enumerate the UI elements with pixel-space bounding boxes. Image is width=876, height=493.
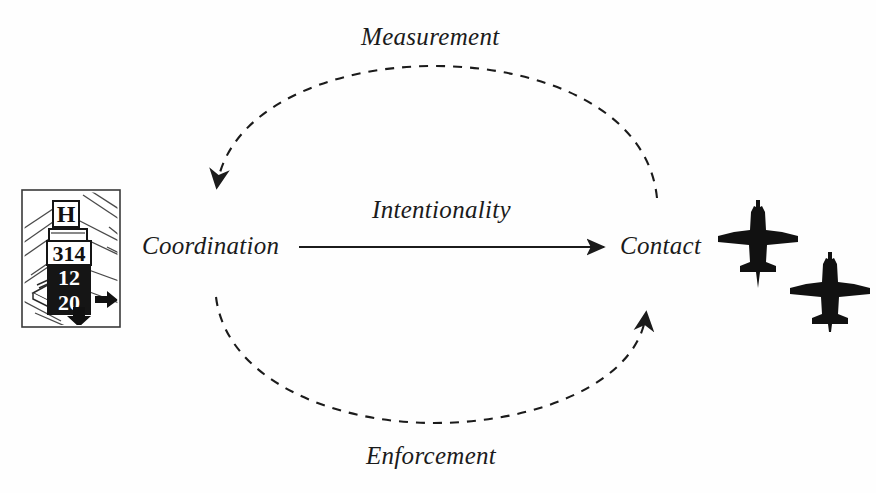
panel-h: H [53,201,79,227]
aircraft-illustration [712,196,876,332]
node-label-coordination: Coordination [142,232,279,260]
node-label-contact: Contact [620,232,701,260]
aircraft-icon-1 [718,200,798,288]
svg-text:12: 12 [58,265,80,290]
edge-enforcement [216,297,646,423]
svg-text:H: H [57,201,76,227]
panel-314: 314 [47,241,91,266]
edge-label-measurement: Measurement [361,23,499,51]
panel-12: 12 [47,265,91,290]
signal-tower-illustration: H 314 12 [21,189,121,328]
aircraft-silhouettes [712,196,876,332]
diagram-canvas: Coordination Contact Measurement Intenti… [0,0,876,493]
edge-label-enforcement: Enforcement [366,442,496,470]
aircraft-icon-2 [790,252,870,332]
edge-label-intentionality: Intentionality [372,196,511,224]
svg-text:314: 314 [53,241,86,266]
panel-connector [49,229,87,241]
signal-tower-drawing: H 314 12 [21,189,121,328]
edge-measurement [217,66,657,198]
